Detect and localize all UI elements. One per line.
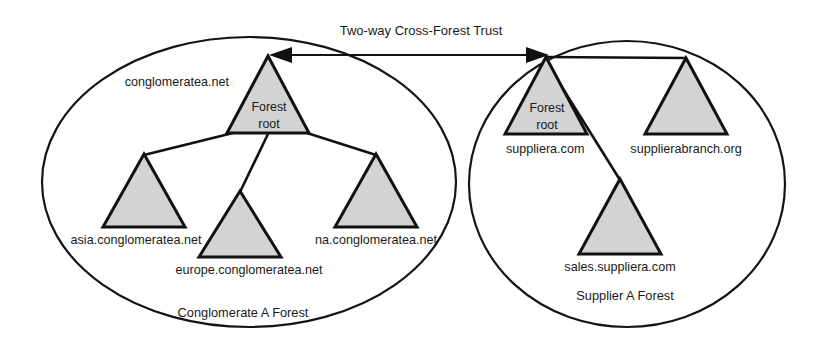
label-forest-root-line2-left: root	[258, 117, 280, 131]
tree-link-root-to-na	[307, 133, 376, 155]
label-forest-root-line1-left: Forest	[251, 100, 287, 114]
caption-conglomerate-a-forest: Conglomerate A Forest	[178, 305, 309, 320]
label-asia-conglomeratea-net: asia.conglomeratea.net	[71, 233, 202, 247]
domain-triangle-europe-conglomeratea-net[interactable]	[199, 191, 281, 257]
label-suppliera-com: suppliera.com	[506, 142, 584, 156]
label-conglomeratea-net: conglomeratea.net	[125, 75, 230, 89]
diagram-canvas: Two-way Cross-Forest Trust conglomeratea…	[0, 0, 825, 355]
trust-arrow-head-left	[269, 47, 292, 63]
label-forest-root-line2-right: root	[536, 118, 558, 132]
forest-boundary-supplier-a	[469, 41, 785, 327]
forest-boundary-conglomerate-a	[42, 37, 456, 327]
tree-link-root-to-supplierabranch	[546, 57, 686, 58]
label-forest-root-line1-right: Forest	[529, 101, 565, 115]
caption-supplier-a-forest: Supplier A Forest	[576, 288, 674, 303]
domain-triangle-sales-suppliera-com[interactable]	[579, 179, 661, 254]
tree-link-root-to-europe	[240, 134, 268, 192]
label-na-conglomeratea-net: na.conglomeratea.net	[315, 233, 437, 247]
domain-triangle-supplierabranch-org[interactable]	[645, 58, 727, 134]
trust-label: Two-way Cross-Forest Trust	[340, 23, 503, 38]
label-europe-conglomeratea-net: europe.conglomeratea.net	[175, 263, 323, 277]
tree-link-root-to-asia	[144, 133, 233, 155]
label-sales-suppliera-com: sales.suppliera.com	[564, 260, 675, 274]
cross-forest-trust-diagram: Two-way Cross-Forest Trust conglomeratea…	[0, 0, 825, 355]
domain-triangle-asia-conglomeratea-net[interactable]	[103, 154, 185, 227]
domain-triangle-na-conglomeratea-net[interactable]	[335, 154, 417, 227]
label-supplierabranch-org: supplierabranch.org	[630, 142, 741, 156]
